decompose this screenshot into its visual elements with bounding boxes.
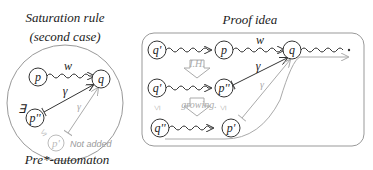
edge-label-gamma-faint-right: γ bbox=[260, 79, 265, 90]
node-label-q: q bbox=[98, 72, 104, 86]
edge-label-w: w bbox=[64, 59, 72, 73]
exists-symbol: ∃ bbox=[18, 102, 27, 116]
edge-label-gamma-right: γ bbox=[256, 59, 261, 73]
node-label-p-double-prime: p'' bbox=[28, 111, 41, 125]
edge-wavy-qprime-to-pdprime bbox=[166, 86, 211, 90]
node-label-p: p bbox=[34, 70, 41, 84]
diagram-canvas: Saturation rule (second case) w γ γ p q … bbox=[0, 0, 373, 170]
not-added-label: Not added bbox=[70, 139, 113, 149]
left-title-line1: Saturation rule bbox=[25, 10, 104, 25]
edge-wavy-qdprime-to-pprime bbox=[169, 126, 213, 130]
leq-symbol-right-1: ≤ bbox=[151, 105, 162, 111]
edge-gamma-pprime-to-q bbox=[68, 88, 98, 133]
left-caption: Pre*-automaton bbox=[24, 152, 110, 167]
node-label-row1-p: p bbox=[220, 43, 227, 57]
edge-w-p-to-q bbox=[47, 74, 94, 78]
ih-label: I.H. bbox=[188, 58, 205, 69]
left-title-line2: (second case) bbox=[29, 29, 100, 44]
right-title: Proof idea bbox=[222, 12, 278, 27]
node-label-row1-q-prime: q' bbox=[153, 43, 162, 57]
edge-label-gamma: γ bbox=[63, 84, 68, 98]
edge-gamma-pdprime-to-q bbox=[44, 85, 93, 112]
leq-symbol-right-2: ≤ bbox=[217, 105, 228, 111]
edge-label-w-right: w bbox=[256, 33, 264, 47]
node-label-p-prime: p' bbox=[51, 137, 61, 149]
node-label-row2-q-prime: q' bbox=[153, 81, 162, 95]
edge-wavy-p-to-q bbox=[233, 48, 284, 52]
node-label-row1-q: q bbox=[289, 43, 295, 57]
right-panel: Proof idea w γ γ I.H. growing. ≤ ≤ q' bbox=[142, 12, 364, 146]
outgoing-dot bbox=[348, 49, 350, 51]
left-panel: Saturation rule (second case) w γ γ p q … bbox=[7, 10, 123, 167]
edge-wavy-qprime-to-p bbox=[166, 48, 211, 52]
leq-symbol-left: ≤ bbox=[38, 126, 49, 139]
edge-label-gamma-faint: γ bbox=[77, 101, 82, 112]
node-label-row3-p-prime: p' bbox=[226, 121, 236, 135]
growing-label: growing. bbox=[181, 99, 216, 110]
node-label-row2-p-double-prime: p'' bbox=[217, 81, 230, 95]
node-label-row3-q-double-prime: q'' bbox=[154, 121, 166, 135]
edge-wavy-q-out bbox=[301, 48, 343, 52]
